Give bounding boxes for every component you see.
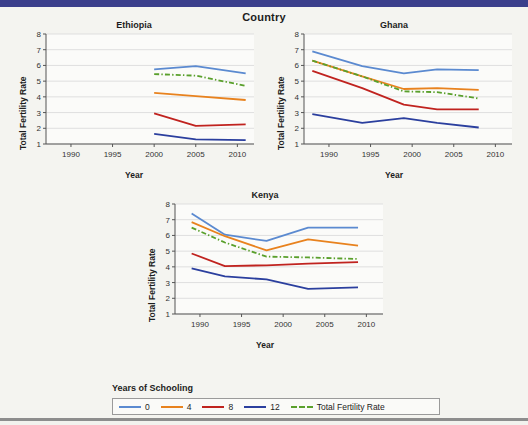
x-tick-label: 1995 — [233, 320, 251, 329]
panel-title-ghana: Ghana — [266, 20, 522, 30]
plot-svg-kenya: 1234567819901995200020052010 — [153, 200, 389, 332]
y-tick-label: 5 — [295, 77, 300, 86]
x-tick-label: 2010 — [486, 150, 504, 159]
x-tick-label: 1995 — [362, 150, 380, 159]
x-tick-label: 1995 — [104, 150, 122, 159]
x-tick-label: 2010 — [357, 320, 375, 329]
y-tick-label: 1 — [295, 140, 300, 149]
x-tick-label: 1990 — [62, 150, 80, 159]
panel-ethiopia: Ethiopia Total Fertility Rate 1234567819… — [8, 20, 260, 180]
y-tick-label: 2 — [37, 124, 42, 133]
plot-svg-ghana: 1234567819901995200020052010 — [282, 30, 518, 162]
x-tick-label: 2000 — [403, 150, 421, 159]
y-tick-label: 7 — [295, 46, 300, 55]
plot-area-kenya: 1234567819901995200020052010 — [153, 200, 389, 332]
y-tick-label: 5 — [166, 247, 171, 256]
y-tick-label: 1 — [37, 140, 42, 149]
y-tick-label: 8 — [295, 30, 300, 39]
x-tick-label: 1990 — [320, 150, 338, 159]
panel-ghana: Ghana Total Fertility Rate 1234567819901… — [266, 20, 522, 180]
x-axis-label-ethiopia: Year — [8, 170, 260, 180]
legend-swatch-icon — [119, 406, 141, 408]
legend-item-label: Total Fertility Rate — [317, 402, 385, 412]
y-tick-label: 8 — [166, 200, 171, 209]
legend-swatch-icon — [202, 406, 224, 408]
legend-item-4[interactable]: 4 — [161, 402, 192, 412]
y-tick-label: 6 — [166, 231, 171, 240]
legend-item-0[interactable]: 0 — [119, 402, 150, 412]
y-tick-label: 4 — [295, 93, 300, 102]
plot-background — [46, 34, 254, 144]
x-tick-label: 1990 — [191, 320, 209, 329]
x-tick-label: 2005 — [445, 150, 463, 159]
x-axis-label-kenya: Year — [137, 340, 393, 350]
y-tick-label: 4 — [37, 93, 42, 102]
legend-item-label: 0 — [145, 402, 150, 412]
panel-kenya: Kenya Total Fertility Rate 1234567819901… — [137, 190, 393, 355]
legend: Years of Schooling 04812Total Fertility … — [88, 383, 440, 419]
legend-item-total-fertility-rate[interactable]: Total Fertility Rate — [291, 402, 385, 412]
legend-item-8[interactable]: 8 — [202, 402, 233, 412]
plot-area-ghana: 1234567819901995200020052010 — [282, 30, 518, 162]
panel-title-kenya: Kenya — [137, 190, 393, 200]
y-tick-label: 2 — [295, 124, 300, 133]
x-tick-label: 2005 — [187, 150, 205, 159]
legend-swatch-icon — [244, 406, 266, 408]
legend-swatch-icon — [161, 406, 183, 408]
plot-svg-ethiopia: 1234567819901995200020052010 — [24, 30, 260, 162]
y-tick-label: 1 — [166, 310, 171, 319]
x-tick-label: 2000 — [274, 320, 292, 329]
y-tick-label: 6 — [295, 61, 300, 70]
x-tick-label: 2005 — [316, 320, 334, 329]
y-tick-label: 2 — [166, 294, 171, 303]
top-accent-bar — [0, 0, 528, 7]
legend-item-label: 4 — [187, 402, 192, 412]
y-tick-label: 3 — [37, 109, 42, 118]
legend-item-label: 8 — [228, 402, 233, 412]
bottom-rule — [0, 418, 528, 421]
legend-title: Years of Schooling — [112, 383, 193, 393]
y-tick-label: 7 — [37, 46, 42, 55]
y-tick-label: 3 — [295, 109, 300, 118]
plot-area-ethiopia: 1234567819901995200020052010 — [24, 30, 260, 162]
legend-item-12[interactable]: 12 — [244, 402, 279, 412]
legend-box: 04812Total Fertility Rate — [112, 398, 440, 415]
x-tick-label: 2010 — [228, 150, 246, 159]
panel-title-ethiopia: Ethiopia — [8, 20, 260, 30]
y-tick-label: 4 — [166, 263, 171, 272]
x-axis-label-ghana: Year — [266, 170, 522, 180]
y-tick-label: 5 — [37, 77, 42, 86]
y-tick-label: 6 — [37, 61, 42, 70]
y-tick-label: 3 — [166, 279, 171, 288]
chart-canvas: Country Ethiopia Total Fertility Rate 12… — [0, 7, 528, 418]
x-tick-label: 2000 — [145, 150, 163, 159]
y-tick-label: 8 — [37, 30, 42, 39]
y-tick-label: 7 — [166, 216, 171, 225]
legend-swatch-icon — [291, 406, 313, 408]
legend-item-label: 12 — [270, 402, 279, 412]
